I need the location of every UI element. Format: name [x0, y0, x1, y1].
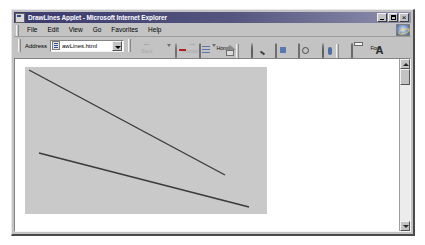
menu-item-file[interactable]: File: [22, 24, 42, 36]
window-title: DrawLines Applet - Microsoft Internet Ex…: [28, 14, 377, 21]
page-icon: [15, 13, 25, 23]
menu-item-favorites[interactable]: Favorites: [106, 24, 143, 36]
title-bar[interactable]: DrawLines Applet - Microsoft Internet Ex…: [14, 12, 411, 23]
scrollbar-track[interactable]: [400, 69, 410, 221]
scroll-thumb[interactable]: [400, 69, 410, 85]
window-controls: [377, 13, 409, 22]
ie-logo-icon: [396, 24, 410, 36]
drawlines-applet-canvas: [25, 67, 267, 214]
toolbar-button-font[interactable]: Font: [364, 43, 388, 52]
menu-item-edit[interactable]: Edit: [42, 24, 63, 36]
browser-window: DrawLines Applet - Microsoft Internet Ex…: [11, 9, 415, 236]
menu-item-view[interactable]: View: [64, 24, 88, 36]
line-2: [39, 153, 249, 207]
vertical-scrollbar[interactable]: [399, 59, 410, 231]
menu-item-help[interactable]: Help: [143, 24, 166, 36]
scroll-up-arrow-icon[interactable]: [400, 59, 410, 69]
menu-item-go[interactable]: Go: [88, 24, 107, 36]
maximize-button[interactable]: [388, 13, 398, 22]
toolbar-button-overflow[interactable]: [387, 43, 411, 44]
line-1: [29, 70, 225, 175]
screen: DrawLines Applet - Microsoft Internet Ex…: [0, 0, 425, 245]
menu-bar: File Edit View Go Favorites Help: [14, 24, 411, 37]
document-area: [14, 58, 411, 232]
toolbar-button-home[interactable]: Home: [211, 43, 235, 52]
menu-grip-handle[interactable]: [16, 25, 19, 36]
scroll-down-arrow-icon[interactable]: [400, 221, 410, 231]
applet-line-drawing: [25, 67, 267, 214]
close-button[interactable]: [399, 13, 409, 22]
minimize-button[interactable]: [377, 13, 387, 22]
